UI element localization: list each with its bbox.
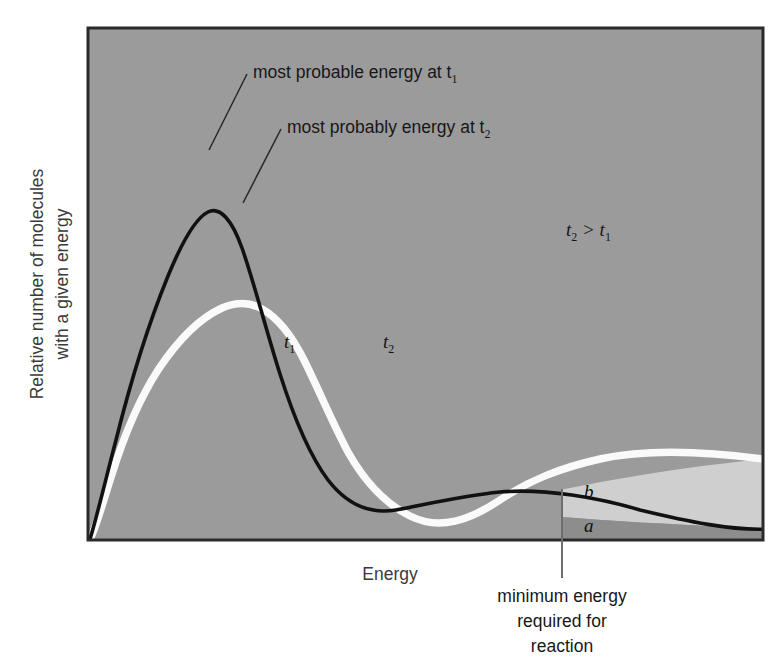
x-axis-label: Energy: [362, 564, 418, 584]
annotation-peak-t2-text: most probably energy at t: [287, 117, 485, 137]
curve-label-t1-subscript: 1: [289, 342, 295, 356]
threshold-caption-line2: required for: [517, 611, 607, 631]
figure-root: most probable energy at t1 most probably…: [0, 0, 784, 668]
maxwell-boltzmann-chart: most probable energy at t1 most probably…: [0, 0, 784, 668]
region-label-a: a: [584, 515, 594, 536]
y-axis-label-line2: with a given energy: [52, 208, 72, 360]
threshold-caption-line1: minimum energy: [497, 586, 627, 606]
annotation-peak-t2-subscript: 2: [484, 127, 490, 141]
curve-label-t2-subscript: 2: [388, 342, 394, 356]
plot-area-background: [88, 28, 763, 540]
annotation-peak-t1-subscript: 1: [451, 72, 457, 86]
annotation-peak-t1-text: most probable energy at t: [253, 62, 452, 82]
y-axis-label-line1: Relative number of molecules: [27, 168, 47, 399]
region-label-b: b: [584, 481, 594, 502]
threshold-caption-line3: reaction: [531, 636, 593, 656]
inequality-t1-subscript: 1: [605, 230, 611, 244]
inequality-operator: > t: [577, 219, 605, 240]
